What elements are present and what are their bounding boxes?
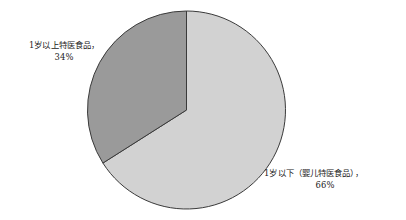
pie-chart-figure: 1岁以上特医食品， 34% 1岁以下（婴儿特医食品）， 66%	[0, 0, 406, 220]
pie-label-over-1-year-text: 1岁以上特医食品，	[18, 40, 110, 52]
pie-label-under-1-year: 1岁以下（婴儿特医食品）， 66%	[264, 168, 404, 191]
pie-label-over-1-year: 1岁以上特医食品， 34%	[18, 40, 110, 63]
pie-label-over-1-year-value: 34%	[18, 52, 110, 64]
pie-label-under-1-year-value: 66%	[264, 180, 386, 192]
pie-label-under-1-year-text: 1岁以下（婴儿特医食品），	[264, 168, 404, 180]
